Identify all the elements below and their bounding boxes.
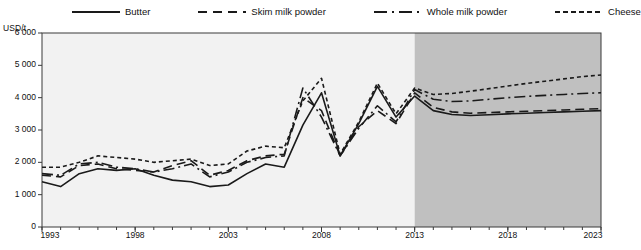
legend-label-cheese: Cheese <box>608 7 641 17</box>
x-axis-tick-label: 2023 <box>573 231 613 240</box>
y-axis-tick-label: 1 000 <box>0 190 36 199</box>
x-axis-tick-label: 2003 <box>208 231 248 240</box>
y-axis-tick-label: 5 000 <box>0 60 36 69</box>
x-axis-tick-label: 2018 <box>488 231 528 240</box>
x-axis-tick-label: 1993 <box>30 231 70 240</box>
projection-region <box>415 33 601 227</box>
y-axis-tick-label: 6 000 <box>0 28 36 37</box>
history-region <box>42 33 415 227</box>
x-axis-tick-label: 2008 <box>302 231 342 240</box>
x-axis-tick-label: 2013 <box>395 231 435 240</box>
y-axis-tick-label: 4 000 <box>0 93 36 102</box>
x-axis-tick-label: 1998 <box>115 231 155 240</box>
y-axis-tick-label: 3 000 <box>0 125 36 134</box>
y-axis-tick-label: 0 <box>0 222 36 231</box>
y-axis-tick-label: 2 000 <box>0 157 36 166</box>
